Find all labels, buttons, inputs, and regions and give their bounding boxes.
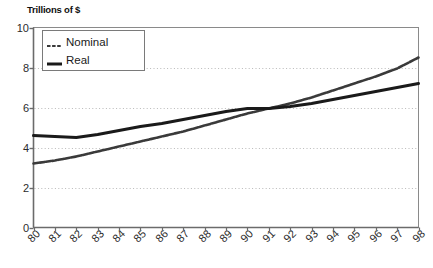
legend-label-real: Real xyxy=(66,54,90,66)
dashed-line-swatch xyxy=(47,37,62,47)
gridlines xyxy=(35,69,418,189)
data-series xyxy=(34,58,419,164)
chart-legend: Nominal Real xyxy=(42,30,145,71)
legend-item-nominal: Nominal xyxy=(47,33,140,51)
line-chart: Trillions of $ 0246810 80818283848586878… xyxy=(0,0,433,268)
legend-item-real: Real xyxy=(47,51,140,69)
series-line-real xyxy=(34,84,419,138)
legend-label-nominal: Nominal xyxy=(66,36,108,48)
solid-line-swatch xyxy=(47,55,62,65)
